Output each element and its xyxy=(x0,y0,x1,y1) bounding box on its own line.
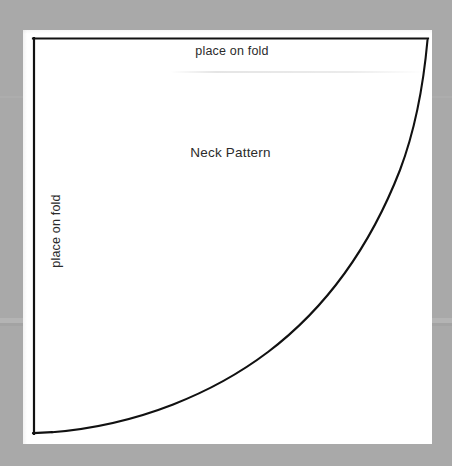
pattern-screenshot: place on fold Neck Pattern place on fold xyxy=(0,0,452,466)
label-place-on-fold-top: place on fold xyxy=(167,44,297,58)
paper-sheet xyxy=(23,30,432,444)
faint-guide-rule xyxy=(170,71,425,73)
label-neck-pattern-title: Neck Pattern xyxy=(163,145,298,160)
label-place-on-fold-left: place on fold xyxy=(49,171,63,291)
